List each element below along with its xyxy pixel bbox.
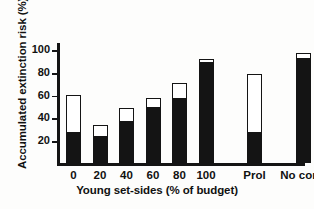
bar-filled-segment xyxy=(297,58,310,162)
x-axis-tick-label: 60 xyxy=(147,169,160,181)
bar-filled-segment xyxy=(67,132,80,162)
bar xyxy=(93,125,108,163)
bar xyxy=(199,59,214,163)
y-axis-tick-label: 40 xyxy=(38,111,50,123)
y-axis-tick-mark xyxy=(52,73,57,75)
bar xyxy=(66,95,81,163)
y-axis-tick-mark xyxy=(52,50,57,52)
x-axis-tick-label: 0 xyxy=(70,169,76,181)
bar-filled-segment xyxy=(147,107,160,162)
y-axis-tick-label: 100 xyxy=(32,43,50,55)
y-axis-tick-label: 80 xyxy=(38,66,50,78)
bar xyxy=(172,83,187,163)
x-axis-line xyxy=(57,163,305,166)
bar xyxy=(146,98,161,163)
y-axis-tick-label: 60 xyxy=(38,89,50,101)
bar-filled-segment xyxy=(173,98,186,162)
y-axis-tick-mark xyxy=(52,118,57,120)
x-axis-tick-label: 20 xyxy=(94,169,107,181)
x-axis-tick-label: 80 xyxy=(173,169,186,181)
plot-area: 20406080100 020406080100ProlNo cons xyxy=(57,40,305,164)
x-axis-tick-label: 100 xyxy=(196,169,215,181)
y-axis-tick-mark xyxy=(52,96,57,98)
x-axis-tick-label: Prol xyxy=(243,169,265,181)
y-axis-title: Accumulated extinction risk (%) xyxy=(16,0,28,169)
bar-filled-segment xyxy=(248,132,261,162)
bar xyxy=(296,53,311,163)
y-axis-tick-mark xyxy=(52,141,57,143)
bar xyxy=(119,108,134,163)
bar-filled-segment xyxy=(120,121,133,162)
bar-filled-segment xyxy=(200,62,213,162)
chart-figure: Accumulated extinction risk (%) 20406080… xyxy=(0,0,314,209)
y-axis-tick-label: 20 xyxy=(38,134,50,146)
x-axis-tick-label: 40 xyxy=(120,169,133,181)
y-axis-line xyxy=(57,43,60,164)
x-axis-title: Young set-sides (% of budget) xyxy=(0,184,314,196)
x-axis-tick-label: No cons xyxy=(280,169,314,181)
bar xyxy=(247,74,262,163)
bar-filled-segment xyxy=(94,136,107,162)
